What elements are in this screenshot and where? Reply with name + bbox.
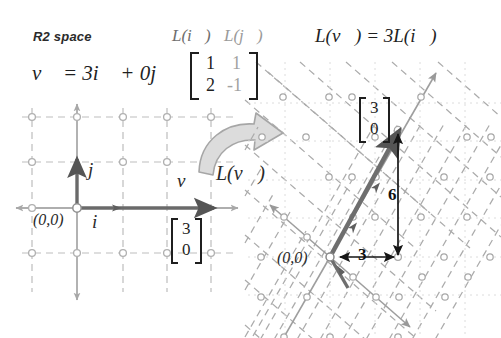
run-label: 3 — [358, 246, 367, 263]
transform-arrow-label: L(v⃗) — [216, 163, 265, 183]
right-colvec-top: 3 — [370, 97, 379, 118]
transformation-matrix: 1 1 2 -1 — [190, 52, 258, 100]
right-colvec-bottom: 0 — [370, 118, 379, 139]
right-column-vector: 3 0 — [359, 97, 390, 143]
matrix-col1-header: L(i⃗) — [172, 27, 211, 44]
figure-canvas: R2 space v⃗ = 3i⃗ + 0j⃗ L(i⃗) L(j⃗) 1 1 … — [0, 0, 501, 338]
matrix-cell-1-1: -1 — [227, 76, 242, 94]
rise-label: 6 — [388, 186, 397, 203]
page-title: R2 space — [33, 30, 92, 43]
left-grid-lines-vertical — [32, 108, 211, 292]
left-column-vector: 3 0 — [171, 218, 202, 264]
left-colvec-top: 3 — [182, 218, 191, 239]
left-grid-lines-horizontal — [22, 117, 236, 253]
matrix-cell-1-0: 2 — [206, 76, 215, 94]
matrix-cell-0-1: 1 — [232, 54, 241, 72]
left-origin-label: (0,0) — [33, 212, 64, 228]
right-origin-label: (0,0) — [277, 250, 308, 266]
left-basis-j-label: j⃗ — [88, 160, 108, 179]
left-origin-marker — [73, 204, 81, 212]
matrix-right-bracket — [249, 52, 258, 100]
matrix-cell-0-0: 1 — [206, 54, 215, 72]
left-vector-v-label: v⃗ — [177, 171, 200, 190]
right-colvec-right-bracket — [383, 97, 390, 143]
left-colvec-left-bracket — [171, 218, 178, 264]
right-vector-negative-i — [330, 257, 348, 288]
matrix-col2-header: L(j⃗) — [224, 27, 263, 44]
left-axes — [16, 104, 238, 300]
left-colvec-right-bracket — [195, 218, 202, 264]
transform-relation: L(v⃗) = 3L(i⃗) — [315, 26, 437, 45]
matrix-left-bracket — [190, 52, 199, 100]
right-origin-marker — [326, 253, 334, 261]
right-axes — [270, 73, 436, 338]
left-colvec-bottom: 0 — [182, 239, 191, 260]
right-colvec-left-bracket — [359, 97, 366, 143]
left-basis-i-label: i⃗ — [92, 212, 112, 231]
vector-equation: v⃗ = 3i⃗ + 0j⃗ — [32, 63, 172, 84]
